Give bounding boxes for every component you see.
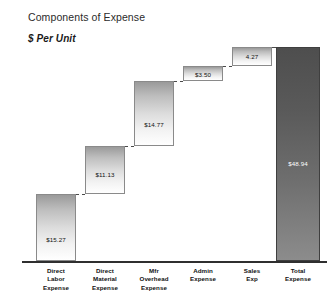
bar-direct-labor-expense <box>36 194 76 261</box>
connector-line <box>174 81 183 82</box>
connector-line <box>125 146 134 147</box>
x-axis-label-line: Expense <box>267 275 329 283</box>
x-axis-label-total-expense: TotalExpense <box>267 267 329 284</box>
bar-value-label: 4.27 <box>232 53 272 60</box>
bar-mfr-overhead-expense <box>134 81 174 146</box>
bar-value-label: $3.50 <box>183 71 223 78</box>
bar-value-label: $15.27 <box>36 236 76 243</box>
connector-line <box>272 47 276 48</box>
waterfall-chart: Components of Expense $ Per Unit $15.27$… <box>0 0 335 300</box>
plot-area: $15.27$11.13$14.77$3.504.27$48.94DirectL… <box>0 0 335 300</box>
connector-line <box>223 66 232 67</box>
bar-total-expense <box>276 47 320 261</box>
x-axis-label-line: Expense <box>125 284 183 292</box>
x-axis-label-line: Total <box>267 267 329 275</box>
bar-value-label: $48.94 <box>276 160 320 167</box>
axis-baseline <box>22 261 327 263</box>
connector-line <box>76 194 85 195</box>
bar-value-label: $14.77 <box>134 121 174 128</box>
bar-value-label: $11.13 <box>85 171 125 178</box>
